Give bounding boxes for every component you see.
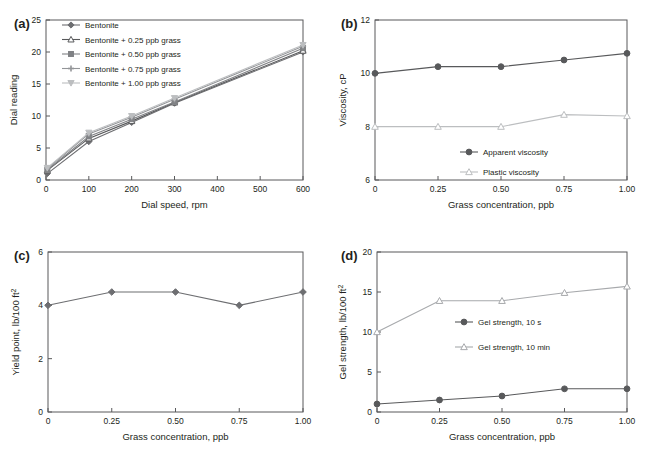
y-tick-label: 2 [38, 354, 43, 364]
x-tick-label: 0.50 [494, 416, 511, 426]
x-tick-label: 100 [82, 184, 96, 194]
y-tick-label: 15 [363, 287, 373, 297]
y-tick-label: 20 [32, 47, 42, 57]
data-point [300, 289, 307, 296]
plot-frame [377, 252, 627, 412]
x-axis-title: Grass concentration, ppb [448, 199, 554, 210]
data-point [372, 70, 378, 76]
legend: Apparent viscosityPlastic viscosity [460, 148, 548, 177]
data-point [45, 302, 52, 309]
legend-label: Bentonite + 0.25 ppb grass [85, 36, 181, 45]
x-tick-label: 0 [46, 416, 51, 426]
legend-label: Bentonite + 1.00 ppb grass [85, 79, 181, 88]
legend-marker [461, 319, 467, 325]
panel-tag: (d) [341, 248, 358, 263]
panel-a: (a)01002003004005006000510152025Dial spe… [0, 0, 325, 232]
data-point [499, 393, 505, 399]
y-tick-label: 12 [361, 15, 371, 25]
legend-label: Gel strength, 10 min [478, 343, 550, 352]
y-tick-label: 0 [38, 407, 43, 417]
x-tick-label: 0.25 [103, 416, 120, 426]
data-point [624, 283, 631, 289]
legend: Gel strength, 10 sGel strength, 10 min [455, 318, 550, 352]
panel-tag: (c) [14, 248, 30, 263]
x-tick-label: 0.50 [493, 184, 510, 194]
y-axis-title: Dial reading [8, 75, 19, 126]
data-point [437, 397, 443, 403]
data-point [172, 289, 179, 296]
y-tick-label: 10 [363, 327, 373, 337]
x-tick-label: 0.25 [431, 416, 448, 426]
y-axis-title: Gel strength, lb/100 ft2 [337, 285, 349, 380]
y-tick-label: 25 [32, 15, 42, 25]
data-point [561, 57, 567, 63]
y-tick-label: 5 [367, 367, 372, 377]
x-tick-label: 1.00 [619, 184, 636, 194]
data-point [108, 289, 115, 296]
x-tick-label: 0.50 [167, 416, 184, 426]
data-point [236, 302, 243, 309]
y-tick-label: 6 [38, 247, 43, 257]
x-axis-title: Grass concentration, ppb [449, 431, 555, 442]
legend-marker [466, 149, 472, 155]
y-tick-label: 0 [367, 407, 372, 417]
legend-marker [68, 65, 74, 71]
legend-label: Apparent viscosity [483, 148, 548, 157]
plot-frame [48, 252, 303, 412]
x-tick-label: 1.00 [619, 416, 636, 426]
y-tick-label: 20 [363, 247, 373, 257]
data-point [435, 64, 441, 70]
x-axis-title: Dial speed, rpm [141, 199, 208, 210]
panel-b-chart: (b)00.250.500.751.00681012Grass concentr… [325, 0, 651, 232]
data-point [498, 64, 504, 70]
legend-marker [68, 22, 74, 28]
legend-label: Plastic viscosity [483, 168, 539, 177]
data-point [562, 386, 568, 392]
y-tick-label: 4 [38, 300, 43, 310]
y-tick-label: 15 [32, 79, 42, 89]
panel-c-chart: (c)00.250.500.751.000246Grass concentrat… [0, 232, 325, 464]
legend-label: Bentonite [85, 21, 119, 30]
panel-tag: (a) [14, 16, 30, 31]
x-tick-label: 0 [44, 184, 49, 194]
panel-c: (c)00.250.500.751.000246Grass concentrat… [0, 232, 325, 464]
y-tick-label: 0 [36, 175, 41, 185]
series-line [47, 45, 303, 168]
x-tick-label: 1.00 [295, 416, 312, 426]
x-tick-label: 300 [167, 184, 181, 194]
panel-d: (d)00.250.500.751.0005101520Grass concen… [325, 232, 651, 464]
x-axis-title: Grass concentration, ppb [122, 431, 228, 442]
panel-d-chart: (d)00.250.500.751.0005101520Grass concen… [325, 232, 651, 464]
data-point [374, 401, 380, 407]
data-point [624, 50, 630, 56]
y-tick-label: 5 [36, 143, 41, 153]
data-point [624, 386, 630, 392]
x-tick-label: 0.75 [556, 416, 573, 426]
legend-label: Bentonite + 0.50 ppb grass [85, 50, 181, 59]
legend-label: Bentonite + 0.75 ppb grass [85, 65, 181, 74]
panel-a-chart: (a)01002003004005006000510152025Dial spe… [0, 0, 325, 232]
figure-rheology-panels: (a)01002003004005006000510152025Dial spe… [0, 0, 651, 464]
x-tick-label: 0 [375, 416, 380, 426]
x-tick-label: 400 [210, 184, 224, 194]
x-tick-label: 600 [296, 184, 310, 194]
y-axis-title: Yield point, lb/100 ft2 [10, 288, 22, 375]
x-tick-label: 0.25 [430, 184, 447, 194]
y-tick-label: 6 [365, 175, 370, 185]
legend-label: Gel strength, 10 s [478, 318, 541, 327]
x-tick-label: 0.75 [556, 184, 573, 194]
panel-b: (b)00.250.500.751.00681012Grass concentr… [325, 0, 651, 232]
legend-marker [69, 52, 74, 57]
legend: BentoniteBentonite + 0.25 ppb grassBento… [62, 21, 181, 88]
y-tick-label: 8 [365, 122, 370, 132]
y-tick-label: 10 [361, 68, 371, 78]
x-tick-label: 200 [125, 184, 139, 194]
x-tick-label: 500 [253, 184, 267, 194]
y-axis-title: Viscosity, cP [337, 74, 348, 127]
panel-tag: (b) [341, 16, 358, 31]
y-tick-label: 10 [32, 111, 42, 121]
x-tick-label: 0 [373, 184, 378, 194]
x-tick-label: 0.75 [231, 416, 248, 426]
